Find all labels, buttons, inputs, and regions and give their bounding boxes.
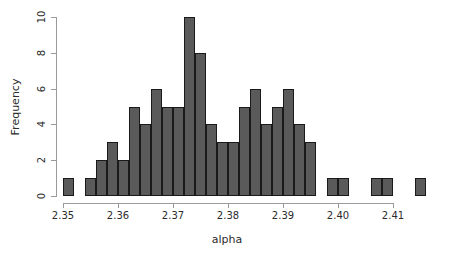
histogram-bar bbox=[382, 178, 393, 196]
histogram-bar bbox=[151, 89, 162, 196]
histogram-bar bbox=[228, 142, 239, 196]
histogram-bar bbox=[327, 178, 338, 196]
x-axis-tick-label: 2.40 bbox=[327, 210, 349, 221]
y-axis-tick-label: 10 bbox=[36, 11, 47, 24]
x-axis-tick-label: 2.41 bbox=[382, 210, 404, 221]
histogram-bar bbox=[294, 124, 305, 196]
y-axis-label: Frequency bbox=[9, 79, 22, 136]
histogram-figure: 2.352.362.372.382.392.402.41 0246810 alp… bbox=[0, 0, 454, 261]
y-axis-tick-label: 0 bbox=[36, 193, 47, 199]
x-axis-tick-label: 2.36 bbox=[107, 210, 129, 221]
y-axis-tick bbox=[51, 17, 56, 18]
histogram-bar bbox=[129, 107, 140, 197]
y-axis-line bbox=[56, 17, 57, 197]
histogram-bar bbox=[162, 107, 173, 197]
x-axis-tick-label: 2.39 bbox=[272, 210, 294, 221]
y-axis-tick-label: 6 bbox=[36, 85, 47, 91]
y-axis-tick-label: 4 bbox=[36, 121, 47, 127]
x-axis-tick-label: 2.35 bbox=[52, 210, 74, 221]
histogram-bar bbox=[96, 160, 107, 196]
histogram-bar bbox=[261, 124, 272, 196]
x-axis-tick bbox=[63, 203, 64, 208]
x-axis-tick-label: 2.38 bbox=[217, 210, 239, 221]
y-axis-tick bbox=[51, 196, 56, 197]
x-axis-tick-label: 2.37 bbox=[162, 210, 184, 221]
histogram-bar bbox=[250, 89, 261, 196]
y-axis-tick-label: 8 bbox=[36, 50, 47, 56]
histogram-bar bbox=[283, 89, 294, 196]
histogram-bar bbox=[63, 178, 74, 196]
histogram-bar bbox=[272, 107, 283, 197]
histogram-bar bbox=[173, 107, 184, 197]
x-axis-tick bbox=[173, 203, 174, 208]
histogram-bar bbox=[371, 178, 382, 196]
y-axis-tick-label: 2 bbox=[36, 157, 47, 163]
histogram-bar bbox=[338, 178, 349, 196]
y-axis-tick bbox=[51, 124, 56, 125]
y-axis-tick bbox=[51, 89, 56, 90]
histogram-bar bbox=[195, 53, 206, 196]
histogram-bar bbox=[305, 142, 316, 196]
histogram-bar bbox=[415, 178, 426, 196]
histogram-bar bbox=[118, 160, 129, 196]
histogram-bar bbox=[184, 17, 195, 196]
x-axis-tick bbox=[118, 203, 119, 208]
histogram-bar bbox=[107, 142, 118, 196]
histogram-bar bbox=[217, 142, 228, 196]
x-axis-tick bbox=[338, 203, 339, 208]
x-axis-label: alpha bbox=[0, 233, 454, 246]
histogram-bar bbox=[85, 178, 96, 196]
histogram-bar bbox=[206, 124, 217, 196]
x-axis-tick bbox=[283, 203, 284, 208]
x-axis-tick bbox=[393, 203, 394, 208]
y-axis-tick bbox=[51, 53, 56, 54]
y-axis-tick bbox=[51, 160, 56, 161]
histogram-bar bbox=[140, 124, 151, 196]
x-axis-tick bbox=[228, 203, 229, 208]
plot-area: 2.352.362.372.382.392.402.41 0246810 bbox=[0, 0, 454, 261]
histogram-bar bbox=[239, 107, 250, 197]
